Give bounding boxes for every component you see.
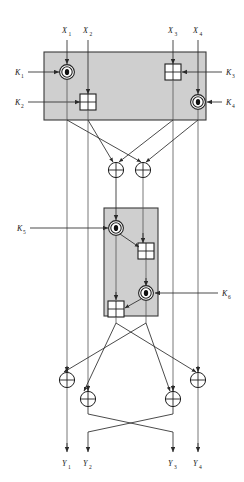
- output-label-y4: Y 4: [193, 459, 202, 470]
- op-circle-dot-4: [139, 286, 154, 301]
- label-y2-sub: 2: [89, 464, 92, 470]
- wire-c-to-xor-a: [119, 120, 173, 162]
- wire-b-to-xor-a: [88, 120, 113, 162]
- output-label-y1: Y 1: [62, 459, 71, 470]
- label-x4-sub: 4: [200, 31, 203, 37]
- op-box-plus-4: [108, 301, 124, 317]
- label-k3-sub: 3: [232, 73, 235, 79]
- wire-lowerright-to-xor3: [146, 323, 170, 391]
- input-label-x3: X 3: [167, 26, 178, 37]
- op-circle-dot-2: [191, 95, 206, 110]
- upper-transform-panel: [44, 52, 206, 120]
- op-xor-3: [165, 391, 180, 406]
- label-k4-base: K: [225, 98, 232, 107]
- label-k4-sub: 4: [232, 103, 235, 109]
- label-x3-base: X: [167, 26, 174, 35]
- input-label-x2: X 2: [82, 26, 93, 37]
- label-k1-base: K: [14, 68, 21, 77]
- op-xor-4: [190, 372, 205, 387]
- label-y3-sub: 3: [174, 464, 177, 470]
- subkey-label-k6: K 6: [221, 289, 231, 300]
- input-label-x1: X 1: [61, 26, 72, 37]
- subkey-label-k5: K 5: [16, 224, 26, 235]
- label-k6-sub: 6: [228, 294, 231, 300]
- label-k6-base: K: [221, 289, 228, 298]
- label-x2-base: X: [82, 26, 89, 35]
- cipher-round-diagram: X 1 X 2 X 3 X 4 K 1 K 2 K 3 K 4: [0, 0, 244, 482]
- op-xor-1: [59, 372, 74, 387]
- label-x1-sub: 1: [69, 31, 72, 37]
- label-k3-base: K: [225, 68, 232, 77]
- wire-lowerright-to-xor1: [64, 323, 146, 372]
- op-box-plus-1: [80, 94, 96, 110]
- output-label-y3: Y 3: [168, 459, 177, 470]
- label-k5-sub: 5: [23, 229, 26, 235]
- subkey-label-k3: K 3: [225, 68, 235, 79]
- wire-lowerleft-to-xor4: [116, 323, 196, 372]
- label-k2-sub: 2: [21, 103, 24, 109]
- subkey-label-k4: K 4: [225, 98, 235, 109]
- label-k2-base: K: [14, 98, 21, 107]
- op-box-plus-2: [165, 64, 181, 80]
- op-xor-2: [80, 391, 95, 406]
- op-xor-b: [135, 162, 150, 177]
- label-k5-base: K: [16, 224, 23, 233]
- op-circle-dot-1: [60, 65, 75, 80]
- wire-a-to-xor-b: [67, 120, 141, 162]
- label-x3-sub: 3: [175, 31, 178, 37]
- label-x2-sub: 2: [90, 31, 93, 37]
- label-y1-sub: 1: [68, 464, 71, 470]
- wire-d-to-xor-b: [146, 120, 198, 162]
- diagram-canvas: X 1 X 2 X 3 X 4 K 1 K 2 K 3 K 4: [0, 0, 244, 482]
- label-y4-sub: 4: [199, 464, 202, 470]
- subkey-label-k2: K 2: [14, 98, 24, 109]
- label-x4-base: X: [192, 26, 199, 35]
- label-k1-sub: 1: [21, 73, 24, 79]
- input-label-x4: X 4: [192, 26, 203, 37]
- subkey-label-k1: K 1: [14, 68, 24, 79]
- output-label-y2: Y 2: [83, 459, 92, 470]
- label-x1-base: X: [61, 26, 68, 35]
- op-circle-dot-3: [109, 221, 124, 236]
- op-xor-a: [108, 162, 123, 177]
- op-box-plus-3: [138, 243, 154, 259]
